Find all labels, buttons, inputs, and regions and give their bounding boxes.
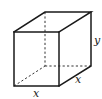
label-height: y — [93, 34, 101, 47]
front-face — [14, 32, 59, 86]
label-side-bottom: x — [75, 73, 82, 86]
label-front-bottom: x — [33, 87, 40, 99]
box-diagram: x x y — [0, 0, 102, 99]
top-face — [14, 12, 91, 32]
hidden-edge-left-bottom — [14, 66, 45, 86]
